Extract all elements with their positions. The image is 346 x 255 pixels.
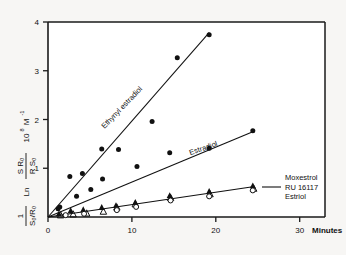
point-4-3 xyxy=(134,204,139,209)
y-tick-label-3: 3 xyxy=(35,67,40,76)
point-1-2 xyxy=(88,187,93,192)
y-axis-prefix-numerator: 1 xyxy=(16,213,25,218)
point-1-0 xyxy=(57,204,62,209)
series-label-ru16117: RU 16117 xyxy=(285,183,318,192)
point-0-6 xyxy=(175,55,180,60)
point-0-3 xyxy=(99,147,104,152)
kinetics-scatter-plot: 1 2 3 4 0 10 20 30 Minutes 1 S₀/R₀ xyxy=(0,0,346,255)
point-4-5 xyxy=(207,194,212,199)
figure-container: 1 2 3 4 0 10 20 30 Minutes 1 S₀/R₀ xyxy=(0,0,346,255)
y-axis-units-exponent: 8 xyxy=(19,128,25,131)
point-4-4 xyxy=(168,198,173,203)
point-4-0 xyxy=(63,213,68,218)
y-axis-units-molar: M xyxy=(22,118,31,125)
y-tick-label-4: 4 xyxy=(35,18,40,27)
x-tick-label-0: 0 xyxy=(46,226,51,235)
point-1-7 xyxy=(250,128,255,133)
point-0-2 xyxy=(80,171,85,176)
point-0-4 xyxy=(116,147,121,152)
point-1-5 xyxy=(167,150,172,155)
y-axis-units-base: 10 xyxy=(22,133,31,142)
point-0-7 xyxy=(207,32,212,37)
y-axis-ln-operator: Ln xyxy=(22,188,31,197)
point-1-3 xyxy=(100,176,105,181)
point-1-4 xyxy=(134,164,139,169)
y-axis-ratio-numerator: S R₀ xyxy=(16,158,25,175)
point-1-1 xyxy=(74,194,79,199)
point-0-1 xyxy=(67,174,72,179)
x-tick-label-10: 10 xyxy=(127,226,136,235)
y-axis-ratio-denominator: R S₀ xyxy=(28,158,37,175)
point-4-6 xyxy=(250,188,255,193)
point-4-1 xyxy=(82,211,87,216)
x-tick-label-30: 30 xyxy=(295,226,304,235)
series-label-estriol: Estriol xyxy=(285,192,306,201)
point-0-5 xyxy=(150,119,155,124)
series-label-moxestrol: Moxestrol xyxy=(285,173,318,182)
y-axis-prefix-denominator: S₀/R₀ xyxy=(28,206,37,226)
y-axis-units-molar-exponent: -1 xyxy=(19,111,25,116)
point-4-2 xyxy=(114,208,119,213)
x-axis-label: Minutes xyxy=(312,226,343,235)
y-tick-label-2: 2 xyxy=(35,116,40,125)
x-tick-label-20: 20 xyxy=(211,226,220,235)
